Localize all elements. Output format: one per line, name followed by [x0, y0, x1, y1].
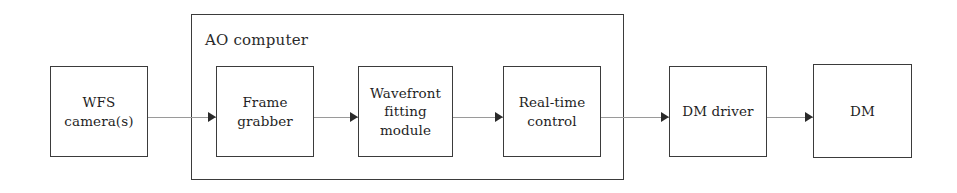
arrowhead-icon-frame-grabber-input [208, 112, 216, 122]
block-label-dm: DM [847, 102, 878, 120]
block-wavefront-fitting-module: Wavefront fitting module [358, 66, 453, 157]
block-dm: DM [813, 64, 912, 158]
arrowhead-icon-real-time-control-input [495, 112, 503, 122]
block-label-wavefront-fitting-module: Wavefront fitting module [367, 84, 444, 138]
arrowhead-icon-wavefront-input [350, 112, 358, 122]
ao-control-loop-diagram: AO computer WFS camera(s) Frame grabber … [0, 0, 957, 193]
group-label-ao-computer: AO computer [205, 31, 308, 49]
block-label-real-time-control: Real-time control [516, 93, 589, 129]
block-label-wfs-camera: WFS camera(s) [61, 93, 136, 129]
connector-real-time-control-to-dm-driver [601, 117, 669, 118]
arrowhead-icon-dm-input [805, 112, 813, 122]
block-label-dm-driver: DM driver [679, 102, 756, 120]
block-wfs-camera: WFS camera(s) [50, 66, 148, 157]
block-frame-grabber: Frame grabber [216, 66, 314, 157]
block-dm-driver: DM driver [669, 66, 767, 157]
block-label-frame-grabber: Frame grabber [234, 93, 296, 129]
connector-wfs-to-frame-grabber [148, 117, 216, 118]
block-real-time-control: Real-time control [503, 66, 601, 157]
arrowhead-icon-dm-driver-input [661, 112, 669, 122]
